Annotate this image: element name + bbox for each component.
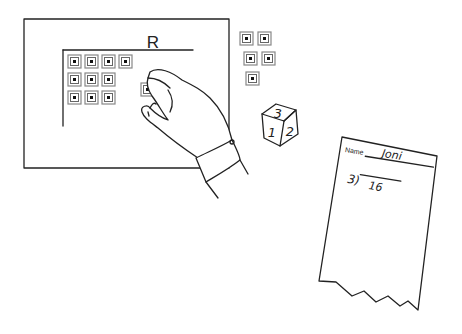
grid-tile[interactable] [85, 73, 98, 86]
student-name[interactable]: Joni [379, 147, 403, 163]
grid-tile[interactable] [68, 91, 81, 104]
dividend: 16 [368, 179, 384, 194]
grid-tile[interactable] [102, 55, 115, 68]
grid-tile[interactable] [68, 73, 81, 86]
die-top: 3 [274, 106, 282, 121]
loose-tile[interactable] [246, 72, 259, 85]
loose-tile[interactable] [240, 32, 253, 45]
name-label: Name [345, 146, 365, 156]
hand [142, 70, 248, 198]
grid-tile[interactable] [102, 73, 115, 86]
board-label: R [147, 33, 159, 52]
number-cube[interactable]: 3 1 2 [262, 104, 298, 146]
grid-tile[interactable] [119, 55, 132, 68]
loose-tile[interactable] [244, 52, 257, 65]
grid-tile[interactable] [102, 91, 115, 104]
die-right: 2 [286, 124, 294, 139]
divisor: 3) [346, 172, 360, 188]
worksheet: Name Joni 3) 16 [319, 137, 437, 310]
illustration: R 3 1 2 Name Joni 3) 16 [0, 0, 462, 334]
grid-tile[interactable] [85, 91, 98, 104]
grid-tile[interactable] [68, 55, 81, 68]
loose-tile[interactable] [262, 52, 275, 65]
loose-tile[interactable] [258, 32, 271, 45]
tile-grid [68, 55, 132, 104]
die-left: 1 [268, 125, 276, 140]
grid-tile[interactable] [85, 55, 98, 68]
loose-tiles [240, 32, 275, 85]
